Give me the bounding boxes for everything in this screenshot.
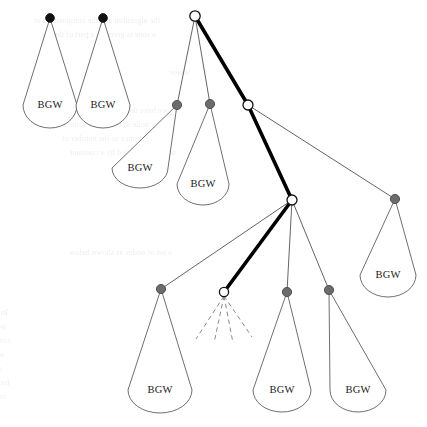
dashed-continuation-edge <box>224 296 252 337</box>
bgw-subtree-balloon <box>360 199 416 297</box>
hollow-tree-node <box>219 287 228 296</box>
tree-canvas: BGWBGWBGWBGWBGWBGWBGWBGW <box>0 0 427 427</box>
hollow-tree-node <box>190 11 200 21</box>
tree-edge <box>287 200 292 292</box>
bgw-subtree-balloon <box>177 104 229 205</box>
bgw-leaf-label: BGW <box>345 384 370 395</box>
gray-tree-node <box>390 194 399 203</box>
bgw-subtree-balloon <box>23 18 77 128</box>
gray-tree-node <box>156 284 165 293</box>
bgw-subtree-balloon <box>76 18 130 128</box>
tree-edge <box>292 200 329 290</box>
gray-tree-node <box>282 287 291 296</box>
search-tree-figure: the algorithm and the computation ofa st… <box>0 0 427 427</box>
black-tree-node <box>46 14 55 23</box>
dashed-continuation-edge <box>196 296 224 339</box>
gray-tree-node <box>172 100 181 109</box>
tree-edge <box>177 16 195 105</box>
tree-edge <box>161 200 292 289</box>
hollow-tree-node <box>243 100 253 110</box>
bgw-leaf-label: BGW <box>269 384 294 395</box>
bgw-leaf-label: BGW <box>37 99 62 110</box>
black-tree-node <box>99 14 108 23</box>
gray-tree-node <box>324 285 333 294</box>
balloon-group <box>23 18 416 413</box>
dashed-edge-group <box>196 296 252 343</box>
bgw-leaf-label: BGW <box>375 269 400 280</box>
bgw-leaf-label: BGW <box>147 384 172 395</box>
highlighted-tree-edge <box>224 200 292 292</box>
bgw-leaf-label: BGW <box>127 162 152 173</box>
hollow-tree-node <box>287 195 297 205</box>
bgw-leaf-label: BGW <box>90 99 115 110</box>
bgw-leaf-label: BGW <box>190 178 215 189</box>
gray-tree-node <box>205 99 214 108</box>
